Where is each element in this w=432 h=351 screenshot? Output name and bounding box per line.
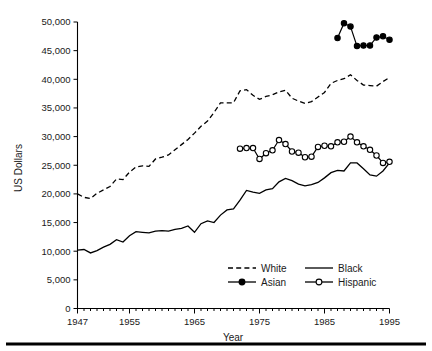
y-axis-tick-labels: 05,00010,00015,00020,00025,00030,00035,0…	[41, 16, 70, 314]
data-point-hispanic	[270, 148, 275, 153]
y-tick-label: 15,000	[41, 217, 70, 228]
data-point-asian	[348, 24, 353, 29]
chart-legend: WhiteBlackAsianHispanic	[228, 263, 376, 288]
legend-marker-hispanic	[316, 279, 322, 285]
y-tick-label: 30,000	[41, 131, 70, 142]
legend-item-white[interactable]: White	[228, 263, 287, 274]
data-point-hispanic	[380, 160, 385, 165]
data-point-hispanic	[374, 153, 379, 158]
data-point-asian	[367, 43, 372, 48]
data-point-hispanic	[322, 143, 327, 148]
legend-item-hispanic[interactable]: Hispanic	[305, 277, 376, 288]
legend-label-white: White	[261, 263, 287, 274]
chart-figure: 05,00010,00015,00020,00025,00030,00035,0…	[0, 0, 432, 351]
data-point-asian	[354, 43, 359, 48]
series-line-black	[78, 163, 390, 253]
series-line-white	[78, 75, 390, 199]
data-point-hispanic	[263, 151, 268, 156]
x-tick-label: 1947	[67, 316, 88, 327]
series-layer	[78, 20, 393, 252]
legend-label-asian: Asian	[261, 277, 286, 288]
y-tick-label: 45,000	[41, 45, 70, 56]
data-point-asian	[341, 20, 346, 25]
x-axis-group: 194719551965197519851995	[67, 309, 400, 327]
data-point-hispanic	[296, 150, 301, 155]
y-axis-title: US Dollars	[13, 144, 24, 192]
legend-item-black[interactable]: Black	[305, 263, 363, 274]
data-point-hispanic	[367, 147, 372, 152]
data-point-hispanic	[309, 154, 314, 159]
y-tick-label: 20,000	[41, 188, 70, 199]
y-axis-group: 05,00010,00015,00020,00025,00030,00035,0…	[41, 16, 77, 314]
data-point-asian	[387, 37, 392, 42]
x-tick-label: 1975	[249, 316, 270, 327]
data-point-hispanic	[283, 141, 288, 146]
data-point-hispanic	[354, 140, 359, 145]
data-point-hispanic	[387, 159, 392, 164]
legend-label-hispanic: Hispanic	[338, 277, 376, 288]
data-point-hispanic	[348, 134, 353, 139]
data-point-hispanic	[237, 146, 242, 151]
data-point-asian	[361, 43, 366, 48]
data-point-hispanic	[328, 144, 333, 149]
legend-label-black: Black	[338, 263, 363, 274]
data-point-hispanic	[361, 144, 366, 149]
y-tick-label: 50,000	[41, 16, 70, 27]
y-tick-label: 0	[65, 303, 70, 314]
data-point-hispanic	[250, 145, 255, 150]
y-tick-label: 5,000	[47, 274, 71, 285]
data-point-asian	[380, 34, 385, 39]
data-point-hispanic	[276, 137, 281, 142]
legend-item-asian[interactable]: Asian	[228, 277, 286, 288]
data-point-hispanic	[341, 139, 346, 144]
y-axis-ticks	[74, 22, 78, 309]
y-tick-label: 35,000	[41, 102, 70, 113]
data-point-hispanic	[257, 156, 262, 161]
x-tick-label: 1965	[184, 316, 205, 327]
data-point-hispanic	[315, 144, 320, 149]
data-point-hispanic	[302, 155, 307, 160]
y-tick-label: 40,000	[41, 74, 70, 85]
income-by-race-line-chart: 05,00010,00015,00020,00025,00030,00035,0…	[0, 0, 432, 351]
data-point-hispanic	[289, 149, 294, 154]
data-point-asian	[374, 35, 379, 40]
data-point-hispanic	[335, 140, 340, 145]
y-tick-label: 10,000	[41, 246, 70, 257]
y-tick-label: 25,000	[41, 160, 70, 171]
x-tick-label: 1955	[119, 316, 140, 327]
legend-marker-asian	[239, 279, 245, 285]
data-point-asian	[335, 35, 340, 40]
data-point-hispanic	[244, 145, 249, 150]
x-tick-label: 1985	[314, 316, 335, 327]
x-tick-label: 1995	[379, 316, 400, 327]
x-axis-tick-labels: 194719551965197519851995	[67, 316, 400, 327]
x-axis-title: Year	[223, 332, 244, 343]
